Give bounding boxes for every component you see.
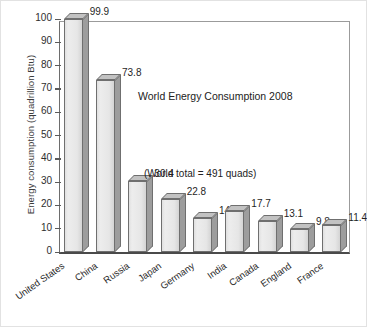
y-axis-tick-label: 80: [41, 59, 52, 70]
x-axis-label: China: [72, 260, 99, 283]
y-axis-tick-mark: [55, 228, 61, 229]
bar-side-face: [115, 74, 121, 252]
bar: 22.8: [161, 193, 180, 252]
bar-side-face: [147, 175, 153, 252]
x-axis-label: United States: [13, 260, 66, 302]
y-axis-tick-mark: [55, 19, 61, 20]
bar-value-label: 13.1: [284, 208, 303, 219]
bar: 14.6: [193, 212, 212, 252]
x-axis-label: Germany: [157, 260, 195, 291]
world-total-annotation: (World total = 491 quads): [144, 168, 256, 179]
y-axis-tick-label: 10: [41, 222, 52, 233]
y-axis-tick-label: 0: [46, 245, 52, 256]
y-axis-tick-mark: [55, 88, 61, 89]
y-axis-tick-mark: [55, 158, 61, 159]
y-axis-tick-label: 30: [41, 175, 52, 186]
bar-side-face: [244, 205, 250, 252]
y-axis-tick-label: 60: [41, 105, 52, 116]
y-axis-tick-label: 90: [41, 35, 52, 46]
y-axis-tick-mark: [55, 112, 61, 113]
x-axis-label: Russia: [101, 260, 131, 286]
bar-side-face: [341, 219, 347, 252]
y-axis-tick-label: 70: [41, 82, 52, 93]
x-axis-label: England: [258, 260, 293, 289]
bar-value-label: 11.4: [348, 212, 367, 223]
plot-area: 0102030405060708090100 99.973.830.422.81…: [59, 21, 350, 254]
bar-front-face: [128, 181, 147, 252]
y-axis-tick-mark: [55, 135, 61, 136]
bar-front-face: [225, 211, 244, 252]
bar-value-label: 73.8: [122, 67, 141, 78]
y-axis-tick-label: 20: [41, 198, 52, 209]
y-axis-tick-label: 100: [35, 12, 52, 23]
bar-front-face: [322, 225, 341, 252]
y-axis-tick-mark: [55, 42, 61, 43]
y-axis-tick-mark: [55, 182, 61, 183]
bar-value-label: 22.8: [187, 186, 206, 197]
bar-value-label: 17.7: [251, 198, 270, 209]
bar-front-face: [290, 229, 309, 252]
bar: 73.8: [96, 74, 115, 252]
y-axis-tick-label: 50: [41, 129, 52, 140]
chart-figure: Energy consumption (quadrillion Btu) 010…: [0, 0, 367, 327]
x-axis-label: India: [205, 260, 228, 281]
x-axis-label: France: [295, 260, 326, 286]
y-axis-tick-mark: [55, 205, 61, 206]
bar: 13.1: [258, 215, 277, 252]
x-axis-label: Canada: [227, 260, 261, 288]
bar-front-face: [193, 218, 212, 252]
y-axis-tick-label: 40: [41, 152, 52, 163]
bar-front-face: [96, 80, 115, 252]
y-axis-title: Energy consumption (quadrillion Btu): [25, 20, 36, 250]
bar-front-face: [64, 19, 83, 252]
bar: 30.4: [128, 175, 147, 252]
bar: 99.9: [64, 13, 83, 252]
chart-title: World Energy Consumption 2008: [138, 90, 292, 102]
bar-front-face: [258, 221, 277, 252]
bar: 9.8: [290, 223, 309, 252]
bar-front-face: [161, 199, 180, 252]
bar-value-label: 99.9: [90, 6, 109, 17]
bar: 11.4: [322, 219, 341, 252]
bar: 17.7: [225, 205, 244, 252]
bar-side-face: [277, 215, 283, 252]
bar-side-face: [180, 193, 186, 252]
bar-side-face: [212, 212, 218, 252]
bar-side-face: [83, 13, 89, 252]
y-axis-tick-mark: [55, 252, 61, 253]
y-axis-tick-mark: [55, 65, 61, 66]
